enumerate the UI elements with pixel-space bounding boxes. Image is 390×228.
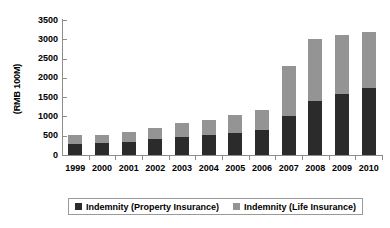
y-tick-label: 3000 <box>18 35 58 44</box>
bar-segment-life-insurance[interactable] <box>228 115 242 133</box>
bar-segment-life-insurance[interactable] <box>255 110 269 130</box>
legend-swatch-icon <box>75 203 82 210</box>
x-axis-tick-marks <box>62 156 383 160</box>
bar-segment-property-insurance[interactable] <box>282 116 296 155</box>
bar-segment-life-insurance[interactable] <box>202 120 216 135</box>
y-tick-label: 500 <box>18 131 58 140</box>
y-tick-label: 2000 <box>18 73 58 82</box>
legend-entry[interactable]: Indemnity (Life Insurance) <box>233 202 356 212</box>
bar-segment-property-insurance[interactable] <box>335 94 349 155</box>
bar-segment-life-insurance[interactable] <box>68 135 82 144</box>
bar-segment-life-insurance[interactable] <box>122 132 136 141</box>
bar-segment-property-insurance[interactable] <box>95 143 109 155</box>
x-tick-mark <box>222 156 223 160</box>
bar-segment-property-insurance[interactable] <box>68 144 82 155</box>
x-tick-mark <box>355 156 356 160</box>
bar-segment-property-insurance[interactable] <box>255 130 269 155</box>
y-tick-label: 1500 <box>18 93 58 102</box>
x-tick-mark <box>275 156 276 160</box>
bar-segment-life-insurance[interactable] <box>362 32 376 88</box>
x-tick-mark <box>169 156 170 160</box>
y-tick-label: 1000 <box>18 112 58 121</box>
bar-segment-property-insurance[interactable] <box>228 133 242 155</box>
y-tick-label: 2500 <box>18 54 58 63</box>
legend-label: Indemnity (Life Insurance) <box>244 202 356 212</box>
bar-segment-property-insurance[interactable] <box>362 88 376 156</box>
legend-swatch-icon <box>233 203 240 210</box>
x-tick-mark <box>302 156 303 160</box>
y-tick-label: 3500 <box>18 16 58 25</box>
chart-legend: Indemnity (Property Insurance)Indemnity … <box>68 198 363 215</box>
bar-segment-life-insurance[interactable] <box>282 66 296 116</box>
bar-segment-property-insurance[interactable] <box>202 135 216 155</box>
x-tick-label: 2010 <box>352 163 386 174</box>
x-tick-mark <box>249 156 250 160</box>
plot-area <box>62 20 382 155</box>
y-tick-label: 0 <box>18 151 58 160</box>
x-tick-mark <box>329 156 330 160</box>
x-tick-mark <box>142 156 143 160</box>
x-tick-mark <box>89 156 90 160</box>
x-tick-mark <box>195 156 196 160</box>
bar-segment-life-insurance[interactable] <box>335 35 349 94</box>
bar-segment-life-insurance[interactable] <box>148 128 162 139</box>
bar-segment-property-insurance[interactable] <box>308 101 322 155</box>
x-tick-mark <box>382 156 383 160</box>
y-axis-tick-labels: 0500100015002000250030003500 <box>16 20 58 155</box>
legend-entry[interactable]: Indemnity (Property Insurance) <box>75 202 219 212</box>
bar-segment-life-insurance[interactable] <box>308 39 322 101</box>
legend-label: Indemnity (Property Insurance) <box>86 202 219 212</box>
chart-figure: (RMB 100M) 0500100015002000250030003500 … <box>0 0 390 228</box>
bar-segment-property-insurance[interactable] <box>175 137 189 156</box>
bar-segment-property-insurance[interactable] <box>148 139 162 155</box>
bar-segment-property-insurance[interactable] <box>122 142 136 156</box>
bar-segment-life-insurance[interactable] <box>95 135 109 143</box>
bar-segment-life-insurance[interactable] <box>175 123 189 136</box>
x-axis-tick-labels: 1999200020012002200320042005200620072008… <box>62 163 383 175</box>
x-tick-mark <box>115 156 116 160</box>
